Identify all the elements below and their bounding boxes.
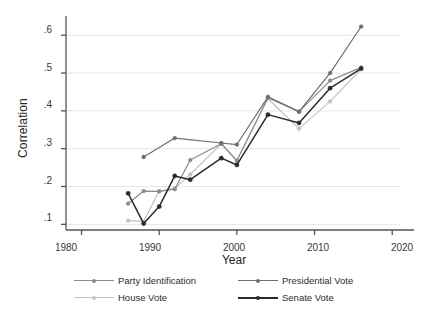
legend-label-party-identification: Party Identification	[118, 275, 196, 286]
data-point	[126, 202, 130, 206]
data-point	[297, 121, 301, 125]
data-point	[142, 221, 146, 225]
legend-swatch-house-vote	[74, 293, 114, 303]
correlation-line-chart: Correlation Year .6 .5 .4 .3 .2 .1 1980 …	[0, 0, 434, 311]
data-point	[188, 173, 192, 177]
y-tick-label-2: .4	[26, 100, 52, 110]
data-point	[235, 143, 239, 147]
data-point	[173, 174, 177, 178]
legend-swatch-presidential-vote	[238, 276, 278, 286]
data-point	[188, 158, 192, 162]
data-point	[328, 71, 332, 75]
data-point	[359, 66, 363, 70]
data-point	[219, 156, 223, 160]
data-point	[266, 113, 270, 117]
x-tick-label-1990: 1990	[128, 243, 172, 253]
legend-label-presidential-vote: Presidential Vote	[282, 275, 353, 286]
data-point	[126, 219, 130, 223]
chart-legend: Party Identification Presidential Vote H…	[74, 272, 394, 306]
data-point	[328, 79, 332, 83]
data-point	[266, 95, 270, 99]
x-axis-title: Year	[60, 253, 408, 267]
data-point	[359, 25, 363, 29]
legend-label-senate-vote: Senate Vote	[282, 292, 334, 303]
y-tick-label-0: .6	[26, 25, 52, 35]
legend-swatch-party-identification	[74, 276, 114, 286]
data-point	[157, 204, 161, 208]
data-point	[173, 187, 177, 191]
y-tick-label-3: .3	[26, 138, 52, 148]
x-tick-label-1980: 1980	[44, 243, 88, 253]
data-point	[188, 178, 192, 182]
y-axis-title: Correlation	[16, 8, 34, 248]
data-point	[142, 189, 146, 193]
x-tick-label-2000: 2000	[212, 243, 256, 253]
series-line-party-identification	[128, 67, 361, 203]
data-point	[126, 191, 130, 195]
legend-entry-party-identification: Party Identification	[74, 272, 230, 289]
legend-entry-senate-vote: Senate Vote	[238, 289, 394, 306]
data-point	[297, 127, 301, 131]
data-point	[219, 141, 223, 145]
legend-label-house-vote: House Vote	[118, 292, 167, 303]
data-point	[173, 136, 177, 140]
y-tick-label-4: .2	[26, 176, 52, 186]
x-tick-label-2020: 2020	[380, 243, 424, 253]
data-point	[297, 110, 301, 114]
legend-swatch-senate-vote	[238, 293, 278, 303]
x-tick-label-2010: 2010	[296, 243, 340, 253]
data-point	[157, 190, 161, 194]
legend-entry-presidential-vote: Presidential Vote	[238, 272, 394, 289]
y-tick-label-1: .5	[26, 63, 52, 73]
legend-entry-house-vote: House Vote	[74, 289, 230, 306]
data-point	[235, 163, 239, 167]
data-point	[328, 86, 332, 90]
y-tick-label-5: .1	[26, 213, 52, 223]
data-point	[328, 100, 332, 104]
data-point	[142, 155, 146, 159]
